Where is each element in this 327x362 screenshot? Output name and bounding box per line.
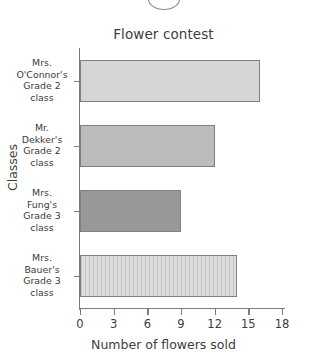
- category-label-1: Mrs.O'Connor'sGrade 2class: [8, 57, 76, 103]
- x-axis-tick-6: [147, 308, 148, 315]
- category-label-4-line-1: Mrs.: [8, 252, 76, 264]
- category-label-4-line-2: Bauer's: [8, 264, 76, 276]
- bar-2: [80, 125, 215, 167]
- x-axis-tick-label-3: 3: [102, 317, 126, 331]
- plot-area: [80, 48, 282, 308]
- x-axis-tick-label-9: 9: [169, 317, 193, 331]
- bar-chart-figure: Flower contest Mrs.O'Connor'sGrade 2clas…: [0, 0, 327, 362]
- category-label-1-line-2: O'Connor's: [8, 69, 76, 81]
- x-axis-tick-9: [181, 308, 182, 315]
- x-axis-tick-label-0: 0: [68, 317, 92, 331]
- category-label-1-line-1: Mrs.: [8, 57, 76, 69]
- category-label-4-line-4: class: [8, 287, 76, 299]
- y-axis-title: Classes: [5, 133, 20, 203]
- x-axis-tick-15: [248, 308, 249, 315]
- category-label-3-line-3: Grade 3: [8, 210, 76, 222]
- category-label-1-line-3: Grade 2: [8, 80, 76, 92]
- x-axis-tick-3: [114, 308, 115, 315]
- category-label-4-line-3: Grade 3: [8, 275, 76, 287]
- x-axis-title: Number of flowers sold: [0, 337, 327, 352]
- category-label-4: Mrs.Bauer'sGrade 3class: [8, 252, 76, 298]
- bar-3: [80, 190, 181, 232]
- x-axis-tick-18: [282, 308, 283, 315]
- x-axis-tick-label-18: 18: [270, 317, 294, 331]
- x-axis-tick-0: [80, 308, 81, 315]
- category-label-1-line-4: class: [8, 92, 76, 104]
- bar-4: [80, 255, 237, 297]
- x-axis-tick-label-6: 6: [135, 317, 159, 331]
- category-label-3-line-4: class: [8, 222, 76, 234]
- x-axis-tick-label-15: 15: [236, 317, 260, 331]
- x-axis-tick-label-12: 12: [203, 317, 227, 331]
- bar-1: [80, 60, 260, 102]
- x-axis-tick-12: [215, 308, 216, 315]
- chart-title: Flower contest: [0, 26, 327, 42]
